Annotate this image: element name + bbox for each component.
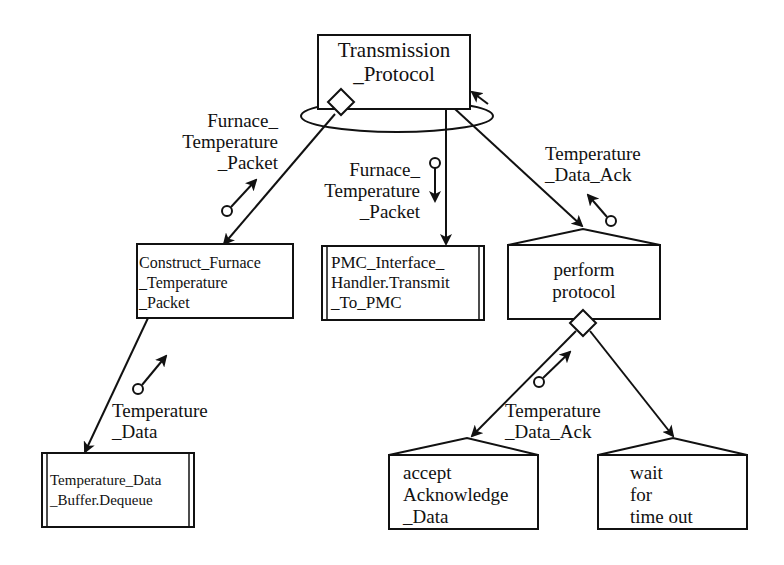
data-couple-icon xyxy=(534,352,570,387)
node-label-dequeue: Temperature_Data _Buffer.Dequeue xyxy=(50,470,161,510)
couple-label-construct-dequeue: Temperature _Data xyxy=(112,400,208,442)
data-couple-icon xyxy=(430,158,440,201)
couple-label-root-construct: Furnace_ Temperature _Packet xyxy=(150,110,278,173)
node-label-wait: wait for time out xyxy=(630,462,693,528)
node-label-transmit: PMC_Interface_ Handler.Transmit _To_PMC xyxy=(331,253,450,313)
node-label-root: Transmission _Protocol xyxy=(318,38,470,86)
node-label-construct: Construct_Furnace _Temperature _Packet xyxy=(139,253,261,313)
data-couple-icon xyxy=(133,356,166,394)
node-label-perform: perform protocol xyxy=(508,259,660,303)
couple-label-perform-accept: Temperature _Data_Ack xyxy=(505,400,601,442)
data-couple-icon xyxy=(222,180,256,216)
node-label-accept: accept Acknowledge _Data xyxy=(403,462,509,528)
couple-label-root-transmit: Furnace_ Temperature _Packet xyxy=(295,159,420,222)
couple-label-root-perform: Temperature _Data_Ack xyxy=(545,143,641,185)
data-couple-icon xyxy=(588,195,616,226)
